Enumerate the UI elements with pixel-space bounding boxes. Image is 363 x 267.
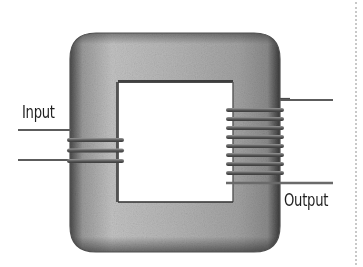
- iron-core: [70, 33, 280, 252]
- output-label: Output: [284, 192, 328, 209]
- primary-turns: [67, 138, 124, 163]
- transformer-diagram: Input Output: [0, 0, 363, 267]
- input-label: Input: [22, 104, 55, 121]
- transformer-svg: [0, 0, 363, 267]
- core-window: [118, 82, 233, 202]
- dotted-border: [355, 2, 357, 265]
